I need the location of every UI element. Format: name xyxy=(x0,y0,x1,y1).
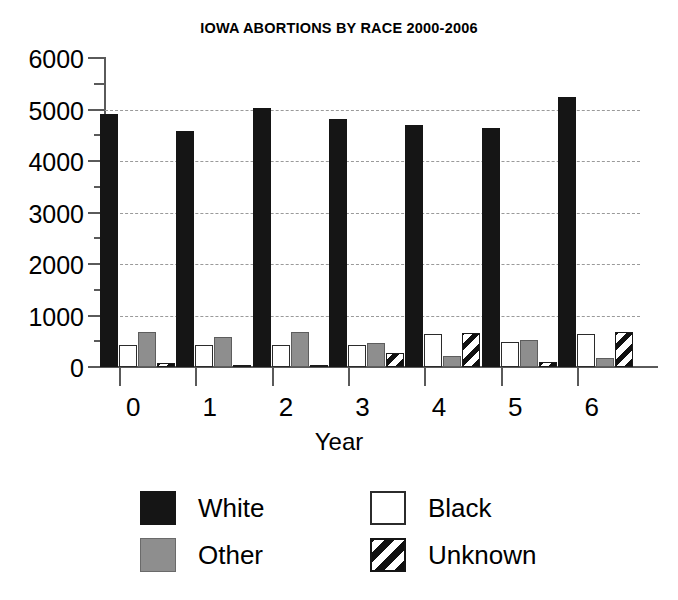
bar-unknown-5 xyxy=(539,362,557,367)
x-tick-6 xyxy=(577,368,579,386)
x-tick-0 xyxy=(119,368,121,386)
x-axis-label-6: 6 xyxy=(572,392,612,423)
bar-other-4 xyxy=(443,356,461,367)
bar-black-3 xyxy=(348,345,366,367)
bar-other-6 xyxy=(596,358,614,367)
bar-chart: IOWA ABORTIONS BY RACE 2000-2006 0100020… xyxy=(0,0,678,600)
legend-item-unknown[interactable]: Unknown xyxy=(370,535,536,575)
bar-black-1 xyxy=(195,345,213,367)
x-tick-5 xyxy=(501,368,503,386)
plot-area xyxy=(105,58,640,367)
y-axis-label-text: 5000 xyxy=(28,97,84,126)
bar-black-5 xyxy=(501,342,519,367)
bar-black-0 xyxy=(119,345,137,367)
x-tick-3 xyxy=(348,368,350,386)
chart-legend: WhiteBlackOtherUnknown xyxy=(140,488,570,580)
bar-unknown-2 xyxy=(310,365,328,367)
bar-white-4 xyxy=(405,125,423,367)
y-axis-label-text: 1000 xyxy=(28,303,84,332)
bar-unknown-1 xyxy=(233,365,251,367)
x-axis-label-4: 4 xyxy=(419,392,459,423)
y-axis-label-text: 0 xyxy=(70,354,84,383)
y-axis-label-text: 3000 xyxy=(28,200,84,229)
bar-unknown-4 xyxy=(462,333,480,367)
bar-white-6 xyxy=(558,97,576,367)
bar-other-0 xyxy=(138,332,156,367)
solid-black-swatch-icon xyxy=(140,491,176,525)
bar-black-2 xyxy=(272,345,290,367)
legend-label-white: White xyxy=(198,493,264,524)
y-axis-label-text: 4000 xyxy=(28,148,84,177)
bar-white-3 xyxy=(329,119,347,367)
y-axis-label-text: 6000 xyxy=(28,45,84,74)
y-tick-6000 xyxy=(88,57,105,59)
x-tick-1 xyxy=(195,368,197,386)
bar-other-2 xyxy=(291,332,309,367)
bar-black-4 xyxy=(424,334,442,367)
bar-other-5 xyxy=(520,340,538,367)
x-axis-label-0: 0 xyxy=(113,392,153,423)
legend-label-other: Other xyxy=(198,540,263,571)
chart-title: IOWA ABORTIONS BY RACE 2000-2006 xyxy=(0,20,678,36)
bar-other-1 xyxy=(214,337,232,367)
legend-item-other[interactable]: Other xyxy=(140,535,263,575)
x-tick-4 xyxy=(424,368,426,386)
y-axis-label-text: 2000 xyxy=(28,251,84,280)
x-axis-label-5: 5 xyxy=(495,392,535,423)
x-axis-title: Year xyxy=(0,428,678,456)
bar-white-2 xyxy=(253,108,271,367)
diagonal-hatch-swatch-icon xyxy=(370,538,406,572)
bar-white-1 xyxy=(176,131,194,367)
x-tick-2 xyxy=(272,368,274,386)
bar-black-6 xyxy=(577,334,595,367)
legend-label-unknown: Unknown xyxy=(428,540,536,571)
legend-item-white[interactable]: White xyxy=(140,488,264,528)
y-tick-5000 xyxy=(88,109,105,111)
bar-unknown-0 xyxy=(157,363,175,367)
solid-gray-swatch-icon xyxy=(140,538,176,572)
bar-unknown-3 xyxy=(386,353,404,367)
bar-white-5 xyxy=(482,128,500,367)
y-tick-5500 xyxy=(94,83,105,85)
bar-unknown-6 xyxy=(615,332,633,367)
legend-item-black[interactable]: Black xyxy=(370,488,492,528)
x-axis-label-2: 2 xyxy=(266,392,306,423)
x-axis-label-1: 1 xyxy=(190,392,230,423)
open-square-swatch-icon xyxy=(370,491,406,525)
bar-white-0 xyxy=(100,114,118,367)
legend-label-black: Black xyxy=(428,493,492,524)
x-axis-label-3: 3 xyxy=(343,392,383,423)
bar-other-3 xyxy=(367,343,385,367)
